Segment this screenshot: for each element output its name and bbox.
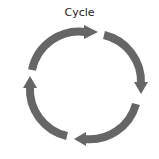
cycle-diagram — [0, 0, 159, 159]
arrowhead-4 — [23, 76, 37, 88]
cycle-arrow-1 — [32, 31, 86, 70]
arrowhead-3 — [74, 132, 86, 146]
arrowhead-2 — [134, 82, 148, 94]
cycle-arrow-4 — [30, 86, 67, 136]
arrowhead-1 — [84, 25, 98, 39]
cycle-arrow-3 — [84, 104, 136, 139]
cycle-arrow-2 — [104, 35, 141, 84]
